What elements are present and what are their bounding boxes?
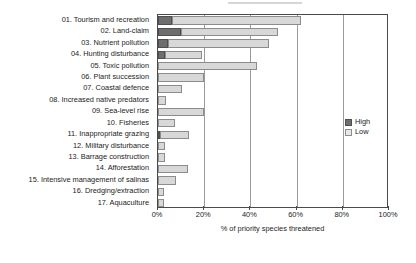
bar-row xyxy=(158,141,387,152)
bar-row xyxy=(158,95,387,106)
bar-row xyxy=(158,198,387,209)
bar-segment-low[interactable] xyxy=(158,199,164,207)
x-tick-label: 60% xyxy=(288,210,303,219)
stacked-bar[interactable] xyxy=(158,39,269,47)
x-tick-label: 0% xyxy=(152,210,163,219)
bar-row xyxy=(158,175,387,186)
category-label: 11. Inappropriate grazing xyxy=(67,128,149,139)
legend-label-high: High xyxy=(355,117,370,127)
category-label: 05. Toxic pollution xyxy=(90,60,149,71)
category-label: 12. Military disturbance xyxy=(73,140,149,151)
low-swatch-icon xyxy=(345,129,352,136)
bar-row xyxy=(158,186,387,197)
x-tick-label: 100% xyxy=(379,210,398,219)
bar-segment-low[interactable] xyxy=(158,62,257,70)
category-label: 09. Sea-level rise xyxy=(92,105,149,116)
stacked-bar[interactable] xyxy=(158,119,175,127)
bar-row xyxy=(158,49,387,60)
category-label: 01. Tourism and recreation xyxy=(62,14,149,25)
bar-segment-low[interactable] xyxy=(168,39,268,47)
bar-row xyxy=(158,26,387,37)
bar-segment-low[interactable] xyxy=(158,188,164,196)
category-label: 10. Fisheries xyxy=(107,117,149,128)
stacked-bar[interactable] xyxy=(158,176,176,184)
bar-row xyxy=(158,83,387,94)
x-axis-title: % of priority species threatened xyxy=(157,224,388,233)
bar-row xyxy=(158,152,387,163)
category-label: 14. Afforestation xyxy=(96,162,149,173)
bar-row xyxy=(158,38,387,49)
bar-segment-high[interactable] xyxy=(158,39,168,47)
chart-legend: High Low xyxy=(345,117,370,137)
bar-segment-high[interactable] xyxy=(158,51,165,59)
category-label: 15. Intensive management of salinas xyxy=(29,174,149,185)
stacked-bar[interactable] xyxy=(158,188,164,196)
category-label: 02. Land-claim xyxy=(101,25,149,36)
bar-segment-low[interactable] xyxy=(158,176,176,184)
bar-row xyxy=(158,72,387,83)
stacked-bar[interactable] xyxy=(158,142,165,150)
stacked-bar[interactable] xyxy=(158,16,301,24)
stacked-bar[interactable] xyxy=(158,153,165,161)
category-axis-labels: 01. Tourism and recreation02. Land-claim… xyxy=(0,14,153,208)
bar-segment-low[interactable] xyxy=(158,96,166,104)
legend-label-low: Low xyxy=(355,127,369,137)
bar-segment-low[interactable] xyxy=(158,165,188,173)
bar-segment-low[interactable] xyxy=(160,131,189,139)
bar-segment-high[interactable] xyxy=(158,16,172,24)
high-swatch-icon xyxy=(345,119,352,126)
bar-segment-high[interactable] xyxy=(158,28,181,36)
bar-segment-low[interactable] xyxy=(158,142,165,150)
category-label: 03. Nutrient pollution xyxy=(81,37,149,48)
bar-segment-low[interactable] xyxy=(165,51,202,59)
x-axis-ticks: 0%20%40%60%80%100% xyxy=(157,210,388,222)
stacked-bar[interactable] xyxy=(158,62,257,70)
category-label: 08. Increased native predators xyxy=(49,94,149,105)
legend-item-low[interactable]: Low xyxy=(345,127,370,137)
bar-row xyxy=(158,106,387,117)
category-label: 17. Aquaculture xyxy=(98,197,149,208)
stacked-bar[interactable] xyxy=(158,85,182,93)
category-label: 04. Hunting disturbance xyxy=(71,48,149,59)
bar-segment-low[interactable] xyxy=(181,28,278,36)
bar-row xyxy=(158,61,387,72)
x-tick-label: 80% xyxy=(334,210,349,219)
bar-segment-low[interactable] xyxy=(158,153,165,161)
plot-area xyxy=(157,14,388,208)
x-tick-label: 40% xyxy=(242,210,257,219)
stacked-bar[interactable] xyxy=(158,165,188,173)
stacked-bar[interactable] xyxy=(158,73,204,81)
stacked-bar[interactable] xyxy=(158,96,166,104)
bar-segment-low[interactable] xyxy=(158,73,204,81)
bar-row xyxy=(158,15,387,26)
bar-segment-low[interactable] xyxy=(158,85,182,93)
chart-figure: 01. Tourism and recreation02. Land-claim… xyxy=(0,0,416,263)
stacked-bar[interactable] xyxy=(158,199,164,207)
stacked-bar[interactable] xyxy=(158,28,278,36)
stacked-bar[interactable] xyxy=(158,108,204,116)
x-tick-label: 20% xyxy=(196,210,211,219)
legend-item-high[interactable]: High xyxy=(345,117,370,127)
category-label: 06. Plant succession xyxy=(81,71,149,82)
bar-segment-low[interactable] xyxy=(158,119,175,127)
stacked-bar[interactable] xyxy=(158,131,189,139)
stacked-bar[interactable] xyxy=(158,51,202,59)
category-label: 16. Dredging/extraction xyxy=(73,185,149,196)
category-label: 07. Coastal defence xyxy=(83,82,149,93)
title-bar-artifact xyxy=(228,2,302,4)
bar-segment-low[interactable] xyxy=(158,108,204,116)
bar-row xyxy=(158,163,387,174)
bar-segment-low[interactable] xyxy=(172,16,301,24)
bar-rows xyxy=(158,15,387,207)
category-label: 13. Barrage construction xyxy=(68,151,149,162)
